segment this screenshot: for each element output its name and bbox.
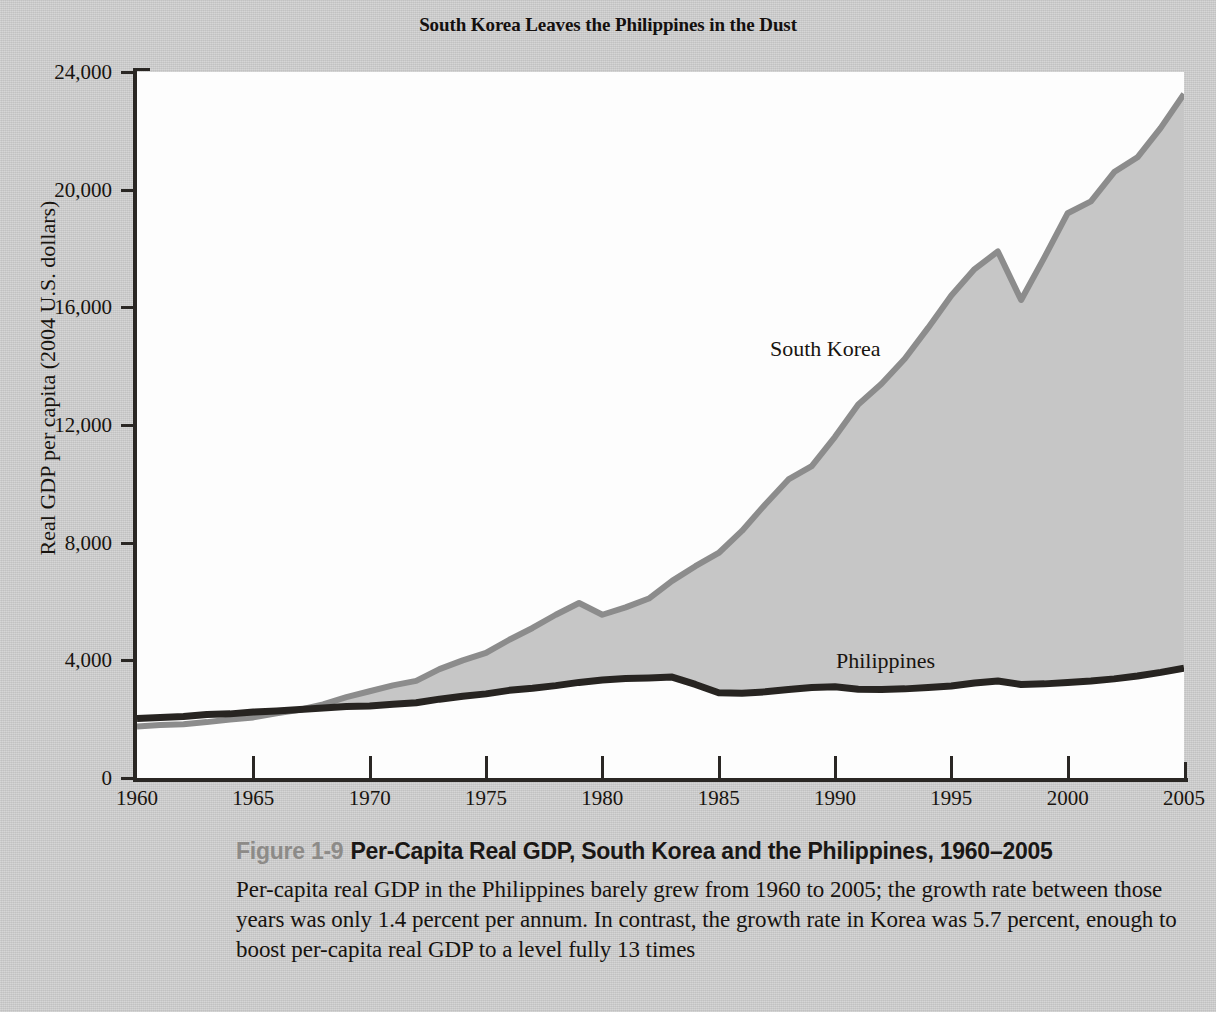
y-tick-mark xyxy=(121,189,137,192)
x-tick-label: 1970 xyxy=(349,786,391,811)
y-tick-mark xyxy=(121,306,137,309)
y-tick-mark xyxy=(121,777,137,780)
korea-philippines-gap-area xyxy=(137,94,1184,726)
y-axis-label: Real GDP per capita (2004 U.S. dollars) xyxy=(35,58,61,698)
x-tick-mark xyxy=(1067,756,1070,778)
x-tick-label: 1965 xyxy=(232,786,274,811)
x-tick-label: 1975 xyxy=(465,786,507,811)
x-tick-mark xyxy=(485,756,488,778)
x-axis-right-cap xyxy=(1184,762,1187,782)
chart-figure: 04,0008,00012,00016,00020,00024,000 1960… xyxy=(0,0,1216,815)
x-axis-spine xyxy=(133,778,1188,782)
x-tick-mark xyxy=(369,756,372,778)
x-tick-label: 1980 xyxy=(581,786,623,811)
y-tick-mark xyxy=(121,424,137,427)
plot-area xyxy=(137,72,1184,778)
y-tick-label: 0 xyxy=(0,766,112,791)
caption-heading: Figure 1-9Per-Capita Real GDP, South Kor… xyxy=(236,836,1204,867)
x-tick-label: 2000 xyxy=(1047,786,1089,811)
x-tick-mark xyxy=(950,756,953,778)
caption-body-text: Per-capita real GDP in the Philippines b… xyxy=(236,875,1204,965)
figure-caption: Figure 1-9Per-Capita Real GDP, South Kor… xyxy=(236,836,1204,965)
y-tick-mark xyxy=(121,659,137,662)
x-tick-label: 2005 xyxy=(1163,786,1205,811)
y-tick-mark xyxy=(121,542,137,545)
x-tick-label: 1985 xyxy=(698,786,740,811)
x-tick-mark xyxy=(252,756,255,778)
x-tick-mark xyxy=(718,756,721,778)
x-tick-label: 1990 xyxy=(814,786,856,811)
x-tick-label: 1995 xyxy=(930,786,972,811)
x-tick-label: 1960 xyxy=(116,786,158,811)
caption-figure-number: Figure 1-9 xyxy=(236,838,343,864)
x-tick-mark xyxy=(834,756,837,778)
caption-title: Per-Capita Real GDP, South Korea and the… xyxy=(350,838,1052,864)
series-plot xyxy=(137,72,1184,778)
series-label-philippines: Philippines xyxy=(836,648,935,674)
series-label-south-korea: South Korea xyxy=(770,336,881,362)
x-tick-mark xyxy=(601,756,604,778)
y-tick-mark xyxy=(121,71,137,74)
